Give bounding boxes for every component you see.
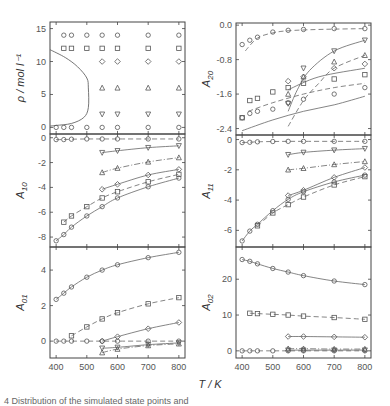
x-axis-label: T / K — [198, 378, 222, 390]
data-point-diamond — [145, 59, 151, 65]
data-point-square — [85, 46, 89, 50]
series-line — [102, 322, 179, 341]
y-tick-label: -4 — [38, 182, 46, 192]
x-tick-label: 500 — [79, 362, 94, 372]
data-point-square — [100, 196, 104, 200]
y-tick-label: -0.8 — [216, 55, 232, 65]
data-point-triangle-down — [146, 112, 151, 117]
y-tick-label: 20 — [222, 274, 232, 284]
data-point-square — [332, 77, 336, 81]
y-tick-label: 4 — [41, 265, 46, 275]
x-tick-label: 800 — [171, 362, 186, 372]
data-point-circle — [62, 33, 66, 37]
y-axis-label: A11 — [200, 183, 215, 200]
x-tick-label: 400 — [49, 362, 64, 372]
data-point-square — [115, 190, 119, 194]
fit-curve — [248, 83, 365, 111]
data-point-triangle-up — [146, 85, 151, 90]
data-point-triangle-up — [115, 85, 120, 90]
data-point-circle — [301, 97, 305, 101]
y-tick-label: 0 — [227, 135, 232, 145]
data-point-circle — [115, 33, 119, 37]
x-tick-label: 400 — [235, 362, 250, 372]
data-point-circle — [69, 33, 73, 37]
fit-curve — [288, 40, 365, 111]
data-point-circle — [240, 116, 244, 120]
series-line — [288, 168, 365, 196]
y-axis-label: A20 — [200, 70, 215, 88]
series-line — [102, 169, 179, 189]
x-tick-label: 600 — [296, 362, 311, 372]
x-tick-label: 700 — [141, 362, 156, 372]
data-point-circle — [146, 33, 150, 37]
figure-caption: 4 Distribution of the simulated state po… — [4, 396, 189, 406]
data-point-diamond — [176, 59, 182, 65]
series-line — [56, 139, 179, 140]
data-point-diamond — [99, 59, 105, 65]
data-point-square — [62, 46, 66, 50]
y-tick-label: -2 — [38, 158, 46, 168]
data-point-diamond — [285, 78, 291, 84]
data-point-circle — [301, 27, 305, 31]
x-tick-label: 500 — [265, 362, 280, 372]
data-point-circle — [146, 125, 150, 129]
series-line — [250, 313, 365, 319]
y-tick-label: 0 — [227, 346, 232, 356]
y-tick-label: 15 — [36, 24, 46, 34]
data-point-triangle-up — [362, 53, 367, 58]
panel-A02: 01020400500600700800A02 — [200, 247, 372, 372]
data-point-square — [115, 46, 119, 50]
fit-curve — [245, 29, 365, 51]
data-point-square — [271, 90, 275, 94]
data-point-circle — [85, 125, 89, 129]
y-tick-label: -8 — [38, 232, 46, 242]
y-tick-label: 2 — [41, 301, 46, 311]
fit-curve — [288, 55, 365, 126]
series-line — [102, 343, 179, 348]
y-axis-label: ρ / mol l⁻¹ — [14, 53, 26, 103]
data-point-circle — [177, 125, 181, 129]
data-point-circle — [248, 111, 252, 115]
data-point-circle — [332, 92, 336, 96]
data-point-triangle-down — [301, 66, 306, 71]
data-point-square — [301, 195, 305, 199]
data-point-square — [146, 180, 150, 184]
data-point-square — [286, 202, 290, 206]
data-point-triangle-down — [115, 112, 120, 117]
x-tick-label: 700 — [327, 362, 342, 372]
y-tick-label: 0 — [41, 133, 46, 143]
data-point-square — [248, 98, 252, 102]
series-line — [242, 260, 365, 285]
y-tick-label: -6 — [224, 225, 232, 235]
series-line — [64, 174, 179, 222]
y-tick-label: 0 — [41, 122, 46, 132]
panel-A10: -8-6-4-20A10 — [14, 133, 185, 247]
y-tick-label: -2 — [224, 165, 232, 175]
data-point-circle — [177, 33, 181, 37]
y-axis-label: A02 — [200, 294, 215, 312]
data-point-triangle-up — [362, 159, 367, 164]
x-tick-label: 800 — [357, 362, 372, 372]
series-line — [71, 298, 178, 336]
y-tick-label: 0 — [41, 336, 46, 346]
data-point-square — [177, 46, 181, 50]
data-point-circle — [240, 42, 244, 46]
data-point-circle — [85, 33, 89, 37]
y-axis-label: A01 — [14, 294, 29, 311]
data-point-triangle-up — [286, 91, 291, 96]
data-point-triangle-up — [332, 59, 337, 64]
data-point-square — [363, 72, 367, 76]
data-point-circle — [115, 125, 119, 129]
data-point-triangle-up — [176, 85, 181, 90]
panel-A20: -2.4-1.6-0.80.0A20 — [200, 20, 371, 135]
data-point-square — [69, 46, 73, 50]
panel-A01: 024400500600700800A01 — [14, 247, 186, 372]
data-point-square — [100, 46, 104, 50]
panel-rho: 051015ρ / mol l⁻¹ — [14, 22, 185, 134]
data-point-circle — [100, 125, 104, 129]
y-tick-label: -4 — [224, 195, 232, 205]
series-line — [102, 158, 179, 173]
data-point-square — [146, 46, 150, 50]
series-line — [242, 141, 365, 142]
